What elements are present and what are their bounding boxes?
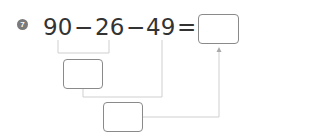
step2-box[interactable] [103, 102, 143, 132]
answer-box[interactable] [198, 14, 239, 44]
step1-box[interactable] [63, 59, 103, 89]
arrow-up-icon [217, 47, 222, 52]
